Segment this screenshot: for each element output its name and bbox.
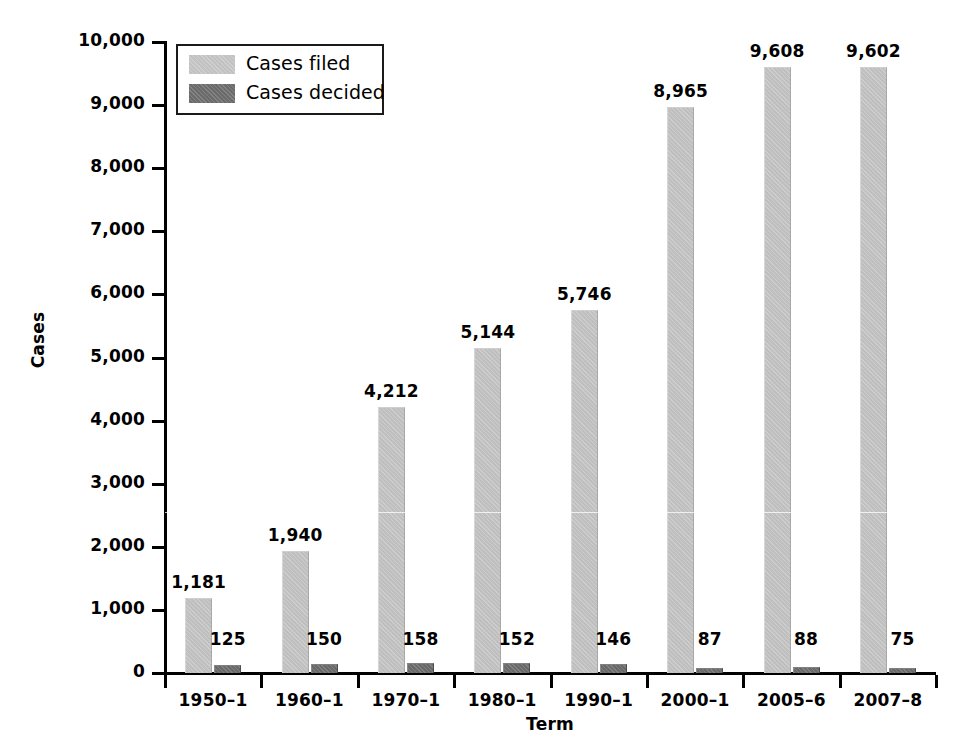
bar-decided-4 [600,664,627,673]
scan-artifact [165,512,935,513]
x-tick-0 [164,675,167,688]
x-tick-5 [646,675,649,688]
x-tick-8 [935,675,938,688]
bar-value-label-filed-4: 5,746 [529,284,639,304]
y-tick-label-0: 0 [0,661,145,681]
bar-chart: Cases Term 10,0009,0008,0007,0006,0005,0… [0,0,965,751]
bar-decided-5 [696,668,723,673]
x-tick-4 [550,675,553,688]
y-tick-4000 [152,420,165,423]
bar-value-label-filed-0: 1,181 [144,572,254,592]
legend-label-cases-decided: Cases decided [246,81,385,103]
legend: Cases filed Cases decided [176,44,384,115]
x-tick-7 [839,675,842,688]
y-tick-5000 [152,357,165,360]
y-tick-label-8000: 8,000 [0,156,145,176]
bar-value-label-filed-3: 5,144 [433,322,543,342]
y-tick-3000 [152,483,165,486]
y-tick-label-5000: 5,000 [0,346,145,366]
x-tick-label-2: 1970–1 [358,690,454,710]
y-tick-8000 [152,167,165,170]
x-axis-title: Term [165,714,935,734]
bar-value-label-decided-2: 158 [366,629,476,649]
bar-decided-6 [793,667,820,673]
x-tick-1 [260,675,263,688]
bar-value-label-decided-4: 146 [558,629,668,649]
bar-filed-4 [571,310,598,673]
x-tick-label-3: 1980–1 [454,690,550,710]
x-tick-label-4: 1990–1 [551,690,647,710]
bar-filed-6 [764,67,791,673]
y-tick-2000 [152,546,165,549]
bar-value-label-decided-5: 87 [655,629,765,649]
y-tick-6000 [152,293,165,296]
y-tick-label-10000: 10,000 [0,30,145,50]
bar-value-label-decided-1: 150 [269,629,379,649]
bar-decided-2 [407,663,434,673]
x-tick-2 [357,675,360,688]
bar-decided-7 [889,668,916,673]
bar-value-label-filed-5: 8,965 [626,81,736,101]
bar-value-label-decided-0: 125 [173,629,283,649]
y-tick-label-2000: 2,000 [0,535,145,555]
x-tick-label-5: 2000–1 [647,690,743,710]
bar-value-label-decided-7: 75 [848,629,958,649]
bar-filed-7 [860,67,887,673]
y-tick-label-4000: 4,000 [0,409,145,429]
bar-filed-5 [667,107,694,673]
bar-value-label-decided-6: 88 [751,629,861,649]
bar-value-label-filed-2: 4,212 [337,381,447,401]
bar-value-label-filed-1: 1,940 [240,525,350,545]
legend-label-cases-filed: Cases filed [246,52,351,74]
legend-swatch-decided-icon [189,84,235,103]
y-tick-9000 [152,104,165,107]
bar-decided-3 [503,663,530,673]
bar-value-label-filed-7: 9,602 [819,41,929,61]
x-tick-label-0: 1950–1 [165,690,261,710]
y-tick-7000 [152,230,165,233]
bar-decided-1 [311,664,338,673]
legend-swatch-filed-icon [189,55,235,74]
x-tick-label-7: 2007–8 [840,690,936,710]
bar-filed-3 [474,348,501,673]
y-tick-label-3000: 3,000 [0,472,145,492]
bar-value-label-filed-6: 9,608 [722,41,832,61]
x-tick-label-1: 1960–1 [261,690,357,710]
x-tick-3 [453,675,456,688]
y-tick-1000 [152,609,165,612]
bar-value-label-decided-3: 152 [462,629,572,649]
bar-filed-1 [282,551,309,673]
y-tick-label-1000: 1,000 [0,598,145,618]
bar-decided-0 [214,665,241,673]
y-tick-label-9000: 9,000 [0,93,145,113]
y-tick-label-6000: 6,000 [0,282,145,302]
x-tick-6 [742,675,745,688]
x-tick-label-6: 2005–6 [743,690,839,710]
y-tick-10000 [152,41,165,44]
y-tick-label-7000: 7,000 [0,219,145,239]
